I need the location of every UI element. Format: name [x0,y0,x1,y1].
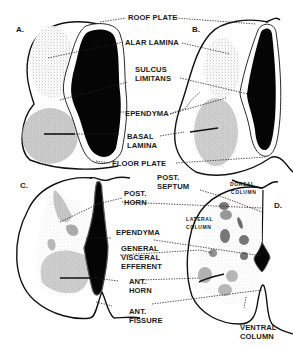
panel-b: B. [175,18,293,175]
label-ant-horn-line2: HORN [129,286,152,295]
label-dorsal-column-line2: COLUMN [231,189,257,195]
label-post-septum-line2: SEPTUM [157,182,189,191]
label-ependyma-top: EPENDYMA [125,109,169,118]
panel-a-basal-region [22,108,78,164]
label-post-horn-line2: HORN [124,198,147,207]
label-ventral-column-line2: COLUMN [240,332,274,341]
panel-d-nucleus [239,235,249,245]
label-post-horn-line1: POST. [124,189,146,198]
label-ant-horn-line1: ANT. [129,277,146,286]
label-gve-line1: GENERAL [121,244,159,253]
label-ventral-column-line1: VENTRAL [240,323,277,332]
label-ependyma-bottom: EPENDYMA [116,228,160,237]
panel-a: A. [16,22,127,169]
panel-d-nucleus [226,270,238,282]
label-ant-fissure-line1: ANT. [129,307,146,316]
label-gve-line3: EFFERENT [121,262,162,271]
label-dorsal-column-line1: DORSAL [230,181,255,187]
neural-tube-development-figure: A. B. C. D. [0,0,293,349]
label-roof-plate: ROOF PLATE [128,13,177,22]
panel-c-letter: C. [20,181,28,190]
panel-d-nucleus [220,229,230,243]
panel-d-gve-nucleus [209,249,217,257]
label-post-septum-line1: POST. [157,173,179,182]
label-ant-fissure-line2: FISSURE [129,316,163,325]
label-basal-lamina-line2: LAMINA [127,141,158,150]
label-alar-lamina: ALAR LAMINA [125,38,179,47]
panel-c-ant-horn [41,250,90,293]
panel-b-alar-region [204,38,240,98]
panel-d-nucleus [240,252,248,260]
label-floor-plate: FLOOR PLATE [112,159,166,168]
panel-b-letter: B. [192,25,200,34]
label-sulcus-limitans-line2: LIMITANS [135,74,171,83]
panel-d-letter: D. [274,201,282,210]
panel-d: D. [187,180,293,334]
label-lateral-column-line1: LATERAL [186,216,213,222]
panel-a-letter: A. [16,25,24,34]
label-basal-lamina-line1: BASAL [127,132,154,141]
panel-d-nucleus [220,210,232,220]
label-gve-line2: VISCERAL [121,253,160,262]
label-lateral-column-line2: COLUMN [186,224,212,230]
panel-b-basal-region [194,98,238,166]
label-sulcus-limitans-line1: SULCUS [135,65,167,74]
